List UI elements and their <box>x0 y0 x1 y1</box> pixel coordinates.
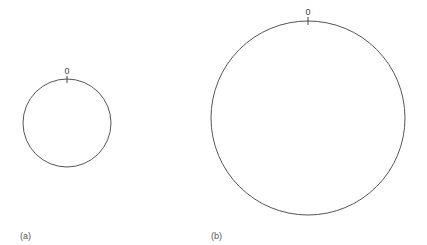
circle-large <box>211 21 405 215</box>
zero-label: 0 <box>305 7 310 17</box>
panel-caption: (a) <box>20 231 31 241</box>
panel-caption: (b) <box>211 231 222 241</box>
circle-small <box>23 79 111 167</box>
zero-label: 0 <box>64 66 69 76</box>
panel-b: 0 (b) <box>211 7 405 241</box>
panel-a: 0 (a) <box>20 66 111 241</box>
figure-canvas: 0 (a) 0 (b) <box>0 0 427 245</box>
